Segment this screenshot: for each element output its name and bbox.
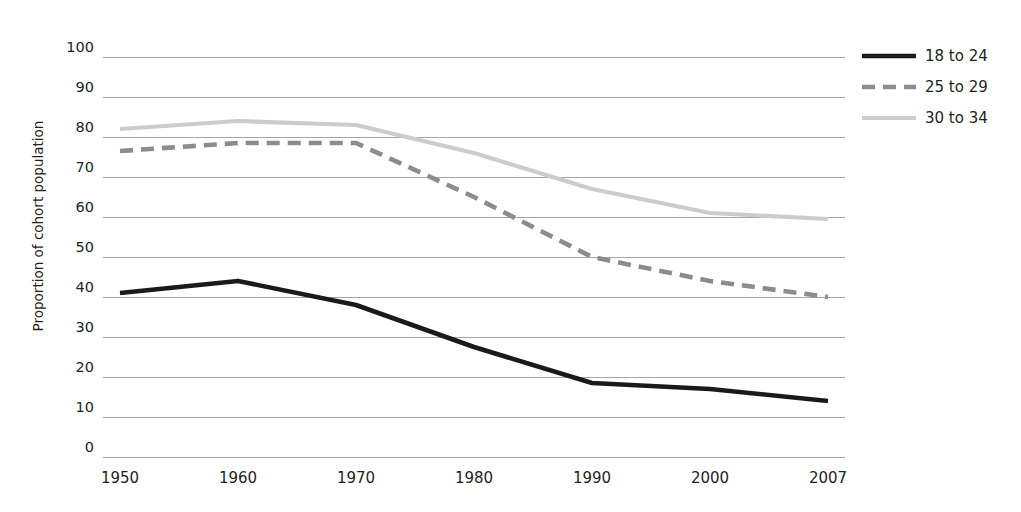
gridline (103, 457, 845, 458)
legend-item[interactable]: 30 to 34 (862, 102, 1021, 133)
x-axis-tick-label: 2007 (809, 469, 847, 487)
x-axis-tick-label: 1980 (455, 469, 493, 487)
x-axis-tick-label: 1950 (101, 469, 139, 487)
y-axis-tick-label: 50 (76, 239, 94, 256)
y-axis-tick-label: 90 (76, 79, 94, 96)
y-axis-tick-label: 80 (76, 119, 94, 136)
y-axis-title: Proportion of cohort population (30, 16, 46, 436)
legend-item-label: 30 to 34 (925, 109, 988, 127)
series-group (103, 57, 845, 457)
legend-item[interactable]: 18 to 24 (862, 40, 1021, 71)
y-axis-tick-label: 0 (85, 439, 94, 456)
y-axis-tick-label: 20 (76, 359, 94, 376)
y-axis-tick-label: 60 (76, 199, 94, 216)
y-axis-tick-label: 10 (76, 399, 94, 416)
legend-item[interactable]: 25 to 29 (862, 71, 1021, 102)
x-axis-tick-label: 1970 (337, 469, 375, 487)
chart-title-clipped (0, 0, 860, 5)
solid-lightgray-line-icon (862, 112, 916, 124)
legend-item-label: 25 to 29 (925, 78, 988, 96)
x-axis-tick-label: 1990 (573, 469, 611, 487)
series-line (120, 143, 828, 297)
series-line (120, 281, 828, 401)
y-axis-tick-label: 40 (76, 279, 94, 296)
y-axis-tick-label: 30 (76, 319, 94, 336)
y-axis-tick-label: 100 (66, 39, 94, 56)
chart-legend: 18 to 2425 to 2930 to 34 (862, 40, 1021, 133)
solid-black-line-icon (862, 50, 916, 62)
x-axis-tick-label: 1960 (219, 469, 257, 487)
y-axis-tick-label: 70 (76, 159, 94, 176)
x-axis-tick-label: 2000 (691, 469, 729, 487)
plot-area: 1009080706050403020100 19501960197019801… (103, 57, 845, 457)
series-line (120, 121, 828, 219)
dashed-gray-line-icon (862, 81, 916, 93)
legend-item-label: 18 to 24 (925, 47, 988, 65)
line-chart: Proportion of cohort population 10090807… (0, 0, 1021, 512)
